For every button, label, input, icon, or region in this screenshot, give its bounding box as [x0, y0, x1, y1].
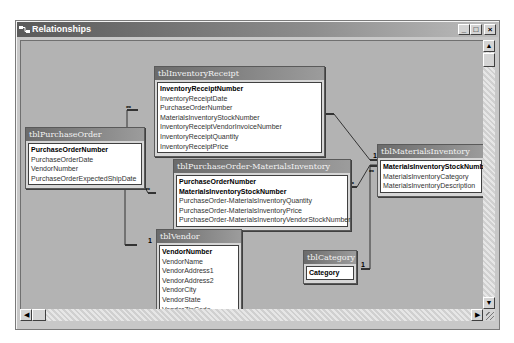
field-item[interactable]: PurchaseOrder-MaterialsInventoryPrice	[179, 206, 345, 216]
field-item[interactable]: PurchaseOrderDate	[31, 155, 139, 165]
relationships-window: Relationships _ □ ×	[15, 20, 500, 330]
table-title[interactable]: tblPurchaseOrder	[26, 128, 144, 141]
field-item[interactable]: VendorState	[162, 295, 236, 305]
table-title[interactable]: tblCategory	[304, 251, 356, 264]
field-item[interactable]: InventoryReceiptDate	[160, 94, 319, 104]
field-item[interactable]: VendorAddress1	[162, 266, 236, 276]
field-list[interactable]: VendorNumber VendorName VendorAddress1 V…	[159, 245, 239, 310]
table-title[interactable]: tblInventoryReceipt	[155, 67, 324, 80]
table-vendor[interactable]: tblVendor VendorNumber VendorName Vendor…	[156, 229, 242, 310]
title-bar[interactable]: Relationships _ □ ×	[17, 22, 498, 37]
table-title[interactable]: tblMaterialsInventory	[378, 145, 484, 158]
field-item[interactable]: VendorName	[162, 257, 236, 267]
table-purchase-order-materials-inventory[interactable]: tblPurchaseOrder-MaterialsInventory Purc…	[173, 159, 351, 231]
vertical-scrollbar[interactable]: ▲ ▼	[483, 40, 495, 310]
field-item[interactable]: PurchaseOrderNumber	[179, 177, 345, 187]
cardinality-one: 1	[148, 237, 152, 244]
field-item[interactable]: PurchaseOrder-MaterialsInventoryQuantity	[179, 196, 345, 206]
field-item[interactable]: VendorNumber	[162, 247, 236, 257]
table-materials-inventory[interactable]: tblMaterialsInventory MaterialsInventory…	[377, 144, 484, 197]
vertical-scroll-thumb[interactable]	[483, 53, 495, 67]
table-inventory-receipt[interactable]: tblInventoryReceipt InventoryReceiptNumb…	[154, 66, 325, 157]
close-button[interactable]: ×	[484, 24, 496, 35]
resize-grip-icon[interactable]	[483, 309, 495, 321]
field-item[interactable]: VendorAddress2	[162, 276, 236, 286]
scroll-left-button[interactable]: ◀	[20, 309, 32, 321]
field-item[interactable]: VendorNumber	[31, 164, 139, 174]
minimize-button[interactable]: _	[458, 24, 470, 35]
cardinality-many: ∞	[369, 167, 374, 174]
field-item[interactable]: InventoryReceiptPrice	[160, 142, 319, 152]
field-list[interactable]: PurchaseOrderNumber MaterialsInventorySt…	[176, 175, 348, 227]
relationships-icon	[19, 25, 31, 35]
field-item[interactable]: MaterialsInventoryStockNumber	[179, 187, 345, 197]
field-item[interactable]: InventoryReceiptQuantity	[160, 132, 319, 142]
field-item[interactable]: InventoryReceiptVendorInvoiceNumber	[160, 122, 319, 132]
scroll-up-button[interactable]: ▲	[483, 40, 495, 52]
table-title[interactable]: tblVendor	[157, 230, 241, 243]
relationships-canvas[interactable]: 1 ∞ ∞ ∞ 1 ∞ 1 ∞ ∞ 1 tblInventoryReceipt …	[20, 40, 484, 310]
field-item[interactable]: MaterialsInventoryCategory	[383, 172, 479, 182]
field-list[interactable]: MaterialsInventoryStockNumber MaterialsI…	[380, 160, 482, 193]
field-item[interactable]: PurchaseOrderExpectedShipDate	[31, 174, 139, 184]
table-purchase-order[interactable]: tblPurchaseOrder PurchaseOrderNumber Pur…	[25, 127, 145, 189]
field-item[interactable]: MaterialsInventoryStockNumber	[383, 162, 479, 172]
field-item[interactable]: PurchaseOrderNumber	[31, 145, 139, 155]
field-item[interactable]: MaterialsInventoryStockNumber	[160, 113, 319, 123]
table-title[interactable]: tblPurchaseOrder-MaterialsInventory	[174, 160, 350, 173]
field-list[interactable]: PurchaseOrderNumber PurchaseOrderDate Ve…	[28, 143, 142, 185]
horizontal-scroll-thumb[interactable]	[32, 309, 46, 321]
field-item[interactable]: Category	[309, 268, 351, 278]
scroll-down-button[interactable]: ▼	[483, 297, 495, 309]
field-item[interactable]: PurchaseOrder-MaterialsInventoryVendorSt…	[179, 215, 345, 225]
horizontal-scrollbar[interactable]: ◀ ▶	[20, 309, 483, 321]
window-title: Relationships	[32, 24, 91, 34]
field-list[interactable]: Category	[306, 266, 354, 280]
scroll-right-button[interactable]: ▶	[471, 309, 483, 321]
field-list[interactable]: InventoryReceiptNumber InventoryReceiptD…	[157, 82, 322, 153]
field-item[interactable]: MaterialsInventoryDescription	[383, 181, 479, 191]
table-category[interactable]: tblCategory Category	[303, 250, 357, 284]
maximize-button[interactable]: □	[470, 24, 482, 35]
cardinality-many: ∞	[145, 185, 150, 192]
field-item[interactable]: VendorCity	[162, 285, 236, 295]
field-item[interactable]: InventoryReceiptNumber	[160, 84, 319, 94]
field-item[interactable]: PurchaseOrderNumber	[160, 103, 319, 113]
cardinality-many: ∞	[126, 103, 131, 110]
cardinality-one: 1	[361, 261, 365, 268]
